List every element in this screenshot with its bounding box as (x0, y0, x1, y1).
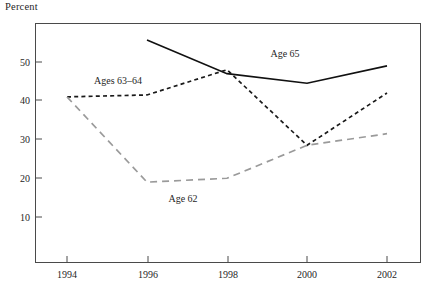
series-annotations: Ages 63–64 Age 65 Age 62 (94, 48, 300, 204)
x-tick-label-2002: 2002 (377, 269, 397, 280)
data-series-group (67, 40, 387, 182)
y-tick-label-20: 20 (20, 173, 30, 184)
annotation-ages-63-64: Ages 63–64 (94, 75, 142, 86)
y-axis-ticks (35, 62, 42, 217)
y-tick-label-50: 50 (20, 57, 30, 68)
y-tick-label-40: 40 (20, 95, 30, 106)
annotation-age-65: Age 65 (270, 48, 299, 59)
series-line-age-62 (67, 97, 387, 182)
y-tick-label-10: 10 (20, 212, 30, 223)
x-tick-label-1998: 1998 (218, 269, 238, 280)
plot-frame (35, 23, 421, 263)
line-chart-plot: 50 40 30 20 10 1994 1996 1998 2000 2002 (0, 0, 430, 308)
y-tick-label-30: 30 (20, 134, 30, 145)
x-tick-label-1994: 1994 (57, 269, 77, 280)
x-tick-label-1996: 1996 (138, 269, 158, 280)
chart-container: Percent 50 40 30 20 10 (0, 0, 430, 308)
series-line-age-65 (147, 40, 387, 83)
x-axis-tick-labels: 1994 1996 1998 2000 2002 (57, 269, 397, 280)
x-axis-ticks (67, 256, 387, 263)
x-tick-label-2000: 2000 (297, 269, 317, 280)
annotation-age-62: Age 62 (168, 193, 197, 204)
y-axis-tick-labels: 50 40 30 20 10 (20, 57, 30, 223)
